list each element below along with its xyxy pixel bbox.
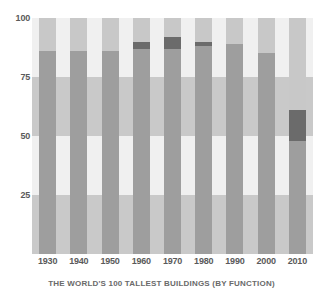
x-tick-label: 1950 — [93, 256, 127, 266]
chart-figure: 100755025 193019401950196019701980199020… — [0, 0, 323, 308]
y-tick-label: 75 — [4, 73, 30, 82]
bar-1990 — [226, 18, 243, 254]
bar-1960 — [133, 18, 150, 254]
bar-segment-residential-other — [258, 18, 275, 53]
x-tick-label: 1990 — [218, 256, 252, 266]
bar-segment-residential-other — [226, 18, 243, 44]
bar-1970 — [164, 18, 181, 254]
y-axis: 100755025 — [0, 0, 30, 308]
bar-segment-residential-other — [164, 18, 181, 37]
bar-segment-office — [102, 51, 119, 254]
bar-segment-office — [39, 51, 56, 254]
y-tick-label: 50 — [4, 132, 30, 141]
x-tick-label: 1930 — [31, 256, 65, 266]
bar-1950 — [102, 18, 119, 254]
bar-2000 — [258, 18, 275, 254]
x-tick-label: 1980 — [187, 256, 221, 266]
bar-segment-mixed-use — [164, 37, 181, 49]
plot-area — [32, 18, 313, 254]
y-tick-label: 25 — [4, 191, 30, 200]
bar-segment-residential-other — [289, 18, 306, 110]
bar-segment-residential-other — [195, 18, 212, 42]
bar-segment-residential-other — [102, 18, 119, 51]
bar-segment-office — [70, 51, 87, 254]
x-tick-label: 1970 — [156, 256, 190, 266]
bar-segment-mixed-use — [133, 42, 150, 49]
x-axis: 193019401950196019701980199020002010 — [32, 256, 313, 272]
y-tick-label: 100 — [4, 14, 30, 23]
bar-1930 — [39, 18, 56, 254]
x-tick-label: 2010 — [280, 256, 314, 266]
bar-segment-office — [133, 49, 150, 254]
bar-segment-office — [258, 53, 275, 254]
bar-segment-office — [195, 46, 212, 254]
bar-segment-residential-other — [133, 18, 150, 42]
bar-segment-residential-other — [39, 18, 56, 51]
bar-segment-office — [164, 49, 181, 254]
bar-segment-office — [226, 44, 243, 254]
x-tick-label: 2000 — [249, 256, 283, 266]
bar-segment-mixed-use — [195, 42, 212, 47]
x-tick-label: 1960 — [124, 256, 158, 266]
x-tick-label: 1940 — [62, 256, 96, 266]
bar-1940 — [70, 18, 87, 254]
bar-segment-office — [289, 141, 306, 254]
bar-2010 — [289, 18, 306, 254]
bar-1980 — [195, 18, 212, 254]
bar-segment-residential-other — [70, 18, 87, 51]
bar-segment-mixed-use — [289, 110, 306, 141]
bar-group — [32, 18, 313, 254]
chart-caption: THE WORLD'S 100 TALLEST BUILDINGS (BY FU… — [0, 279, 323, 288]
